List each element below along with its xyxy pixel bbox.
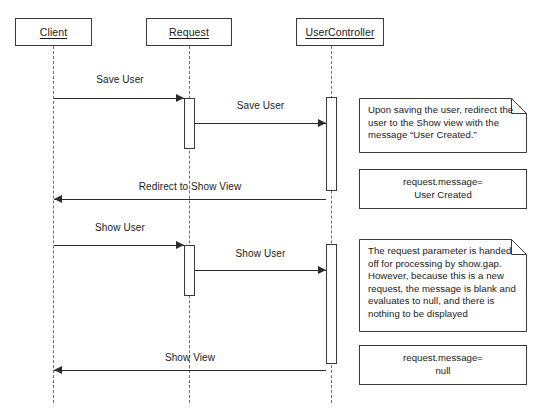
- note-redirect-instruction: Upon saving the user, redirect the user …: [359, 98, 527, 153]
- message-line-show-user-1: [54, 245, 184, 246]
- message-line-save-user-1: [54, 98, 184, 99]
- lifeline-client: [53, 46, 54, 403]
- activation-bar-controller-save: [326, 97, 337, 191]
- message-arrowhead-save-user-2: [318, 119, 326, 127]
- message-label-show-user-1: Show User: [55, 222, 185, 233]
- lifeline-header-request[interactable]: Request: [146, 18, 232, 46]
- message-label-save-user-1: Save User: [55, 74, 185, 85]
- note-text-redirect-instruction: Upon saving the user, redirect the user …: [359, 98, 527, 148]
- note-request-message-user-created: request.message= User Created: [359, 169, 527, 209]
- note-text-request-parameter-explanation: The request parameter is handed off for …: [359, 239, 527, 327]
- message-line-show-user-2: [195, 270, 326, 271]
- activation-bar-controller-show: [326, 244, 337, 364]
- message-label-show-view: Show View: [54, 352, 326, 363]
- activation-bar-request-show: [184, 245, 195, 296]
- note-text-request-message-null: request.message= null: [397, 352, 489, 377]
- message-label-show-user-2: Show User: [195, 248, 326, 259]
- note-request-parameter-explanation: The request parameter is handed off for …: [359, 239, 527, 332]
- message-label-save-user-2: Save User: [195, 100, 326, 111]
- lifeline-label-request: Request: [169, 26, 209, 38]
- lifeline-label-usercontroller: UserController: [305, 26, 374, 38]
- lifeline-header-usercontroller[interactable]: UserController: [296, 18, 384, 46]
- message-label-redirect-to-show-view: Redirect to Show View: [54, 181, 326, 192]
- message-line-show-view: [54, 370, 326, 371]
- note-request-message-null: request.message= null: [359, 345, 527, 385]
- note-text-request-message-user-created: request.message= User Created: [397, 176, 489, 201]
- activation-bar-request-save: [184, 98, 195, 149]
- message-line-redirect-to-show-view: [54, 199, 326, 200]
- message-arrowhead-save-user-1: [176, 94, 184, 102]
- message-arrowhead-show-user-2: [318, 266, 326, 274]
- sequence-diagram-canvas: Client Request UserController Save User …: [0, 0, 535, 420]
- message-arrowhead-redirect-to-show-view: [54, 195, 62, 203]
- message-arrowhead-show-user-1: [176, 241, 184, 249]
- lifeline-label-client: Client: [40, 26, 67, 38]
- message-arrowhead-show-view: [54, 366, 62, 374]
- lifeline-header-client[interactable]: Client: [15, 18, 92, 46]
- message-line-save-user-2: [195, 123, 326, 124]
